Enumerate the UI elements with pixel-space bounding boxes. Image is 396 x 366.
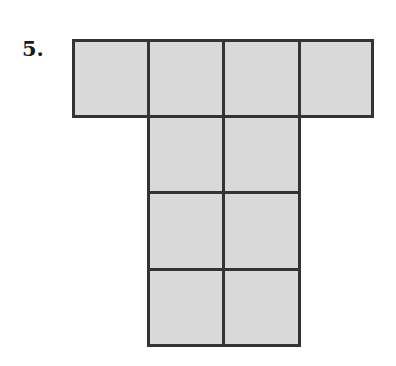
grid-square: [147, 39, 225, 118]
grid-square: [222, 268, 301, 347]
problem-number: 5.: [22, 36, 44, 61]
grid-square: [222, 39, 301, 118]
grid-square: [298, 39, 374, 118]
grid-square: [147, 115, 225, 194]
grid-square: [222, 191, 301, 271]
grid-square: [222, 115, 301, 194]
grid-square: [72, 39, 150, 118]
grid-square: [147, 191, 225, 271]
grid-square: [147, 268, 225, 347]
